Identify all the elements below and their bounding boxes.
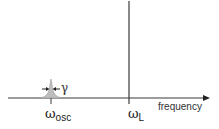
laser-omega-symbol: ω [128, 106, 139, 121]
osc-frequency-label: ωosc [45, 104, 71, 122]
osc-subscript: osc [56, 112, 72, 123]
osc-omega-symbol: ω [45, 106, 56, 121]
frequency-axis-label: frequency [158, 101, 202, 112]
linewidth-label: γ [61, 81, 68, 95]
laser-subscript: L [139, 112, 145, 123]
laser-frequency-label: ωL [128, 104, 144, 122]
axis-arrowhead-icon [203, 95, 210, 101]
